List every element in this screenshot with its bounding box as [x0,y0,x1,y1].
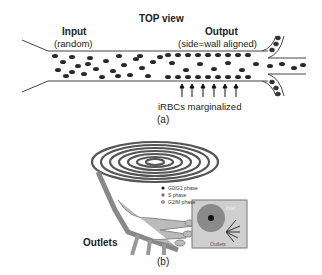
legend-item-g0g1: G0/G1 phase [168,185,198,191]
legend-item-s: S phase [168,192,186,198]
outlets-label: Outlets [83,237,117,248]
spiral-device [0,140,322,275]
legend-item-g2m: G2/M phase [168,199,195,205]
inset-inlet-label: Inlet [226,205,235,211]
inset-outlets-label: Outlets [210,241,226,247]
panel-b-caption: (b) [157,256,169,267]
panel-a-caption: (a) [157,114,169,125]
marginalized-annotation: iRBCs marginalized [158,101,241,112]
